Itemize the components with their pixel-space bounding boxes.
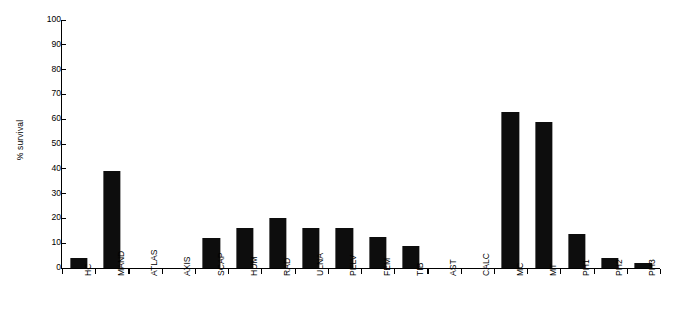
x-axis-tick-mark	[128, 269, 129, 274]
x-axis-tick-mark	[594, 269, 595, 274]
x-axis-tick-label: MC	[515, 212, 525, 276]
y-axis-tick-label: 50	[35, 138, 61, 149]
x-axis-tick-mark	[627, 269, 628, 274]
x-axis-tick-mark	[527, 269, 528, 274]
y-axis-tick-label: 100	[35, 14, 61, 25]
x-axis-tick-label: PH1	[581, 212, 591, 276]
x-axis-tick-mark	[427, 269, 428, 274]
x-axis-tick-mark	[228, 269, 229, 274]
x-axis-tick-mark	[461, 269, 462, 274]
x-axis-tick-mark	[195, 269, 196, 274]
x-axis-tick-label: HC	[83, 212, 93, 276]
x-axis-tick-label: TIB	[415, 212, 425, 276]
y-axis-tick-label: 10	[35, 237, 61, 248]
x-axis-tick-mark	[162, 269, 163, 274]
bar-chart-figure: % survival 0102030405060708090100 HCMAND…	[0, 0, 683, 325]
x-axis-tick-mark	[394, 269, 395, 274]
x-axis-tick-label: PELV	[348, 212, 358, 276]
x-axis-tick-mark	[328, 269, 329, 274]
x-axis-tick-label: ATLAS	[149, 212, 159, 276]
x-axis-tick-label: AXIS	[182, 212, 192, 276]
x-axis-tick-label: CALC	[481, 212, 491, 276]
y-axis-tick-label: 70	[35, 88, 61, 99]
y-axis-tick-label: 90	[35, 39, 61, 50]
x-axis-tick-label: MAND	[116, 212, 126, 276]
x-axis-tick-label: PH3	[647, 212, 657, 276]
y-axis-tick-label: 30	[35, 188, 61, 199]
x-axis-tick-label: SCAP	[216, 212, 226, 276]
x-axis-tick-label: FEM	[382, 212, 392, 276]
x-axis-tick-label: AST	[448, 212, 458, 276]
x-axis-tick-mark	[494, 269, 495, 274]
y-axis-tick-label: 80	[35, 64, 61, 75]
x-axis-tick-mark	[660, 269, 661, 274]
x-axis-tick-label: ULNA	[315, 212, 325, 276]
x-axis-tick-label: PH2	[614, 212, 624, 276]
x-axis-tick-mark	[95, 269, 96, 274]
y-axis-tick-label: 0	[35, 262, 61, 273]
x-axis-tick-mark	[62, 269, 63, 274]
x-axis-tick-label: MT	[548, 212, 558, 276]
y-axis-tick-label: 20	[35, 212, 61, 223]
x-axis-tick-mark	[261, 269, 262, 274]
x-axis-tick-mark	[560, 269, 561, 274]
x-axis-tick-mark	[361, 269, 362, 274]
x-axis-tick-mark	[295, 269, 296, 274]
y-axis-title: % survival	[10, 0, 30, 280]
y-axis-title-text: % survival	[15, 120, 25, 161]
x-axis-tick-label: HUM	[249, 212, 259, 276]
x-axis-tick-label: RAD	[282, 212, 292, 276]
y-axis-tick-label: 60	[35, 113, 61, 124]
y-axis-tick-label: 40	[35, 163, 61, 174]
